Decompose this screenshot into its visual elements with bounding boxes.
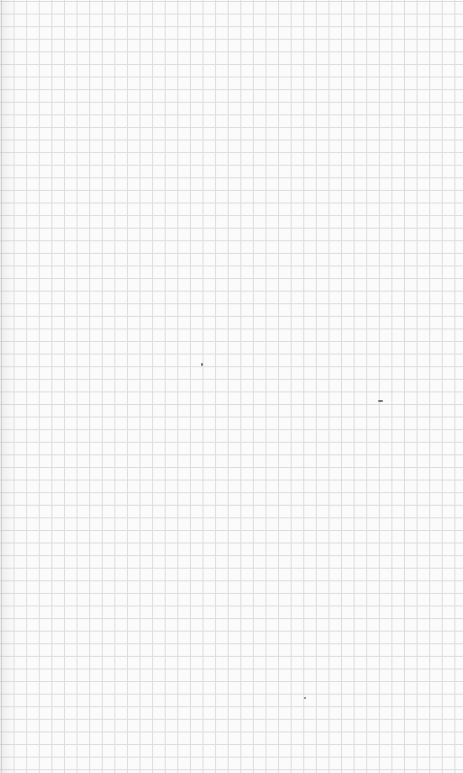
- speck: [201, 363, 203, 366]
- grid-paper: [0, 0, 463, 773]
- speck: [378, 400, 383, 402]
- speck: [304, 697, 306, 699]
